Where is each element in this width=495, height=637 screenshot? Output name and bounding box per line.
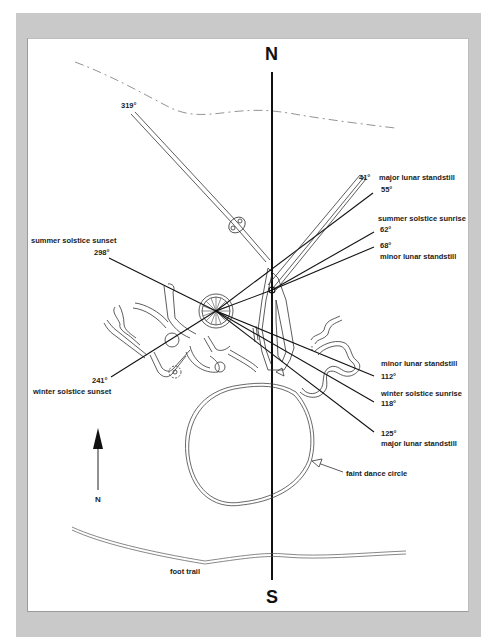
foot-trail-label: foot trail	[170, 567, 200, 576]
azimuth-55-degrees: 55°	[381, 185, 392, 194]
azimuth-298-degrees: 298°	[94, 248, 110, 257]
dance-circle-label: faint dance circle	[346, 469, 407, 478]
ridge-line	[75, 62, 395, 128]
azimuth-112-degrees: 112°	[381, 372, 396, 381]
azimuth-68-label: minor lunar standstill	[380, 252, 456, 261]
line-from-disk-to-center	[216, 290, 272, 311]
serpent-glyph	[300, 316, 360, 397]
line-62	[272, 232, 374, 290]
dance-circle-pointer	[312, 459, 343, 472]
alignment-diagram	[0, 0, 495, 637]
azimuth-241-degrees: 241°	[92, 376, 108, 385]
azimuth-68-degrees: 68°	[380, 241, 391, 250]
foot-trail	[72, 527, 406, 564]
sightlines-center	[216, 232, 374, 311]
south-label: S	[266, 588, 278, 606]
azimuth-125-degrees: 125°	[381, 429, 397, 438]
azimuth-41-degrees: 41°	[359, 173, 370, 182]
staff-glyph-41	[268, 175, 366, 290]
line-112	[216, 311, 374, 376]
line-298	[109, 258, 216, 311]
azimuth-125-label: major lunar standstill	[381, 439, 457, 448]
north-arrow-label: N	[95, 495, 101, 504]
azimuth-62-label: summer solstice sunrise	[378, 214, 466, 223]
azimuth-298-label: summer solstice sunset	[31, 236, 116, 245]
central-figure-glyph	[228, 268, 294, 376]
north-label: N	[265, 45, 278, 63]
sightlines-sun-disk	[109, 193, 374, 432]
line-55-from-disk	[216, 193, 373, 311]
staff-glyph-319	[131, 112, 270, 262]
azimuth-118-label: winter solstice sunrise	[381, 389, 462, 398]
azimuth-112-label: minor lunar standstill	[381, 359, 457, 368]
line-68	[272, 247, 374, 290]
dance-circle	[185, 383, 313, 506]
north-arrow-icon	[93, 428, 103, 490]
azimuth-241-label: winter solstice sunset	[33, 387, 111, 396]
azimuth-118-degrees: 118°	[381, 399, 396, 408]
azimuth-319-degrees: 319°	[121, 101, 137, 110]
azimuth-41-label: major lunar standstill	[379, 173, 455, 182]
azimuth-62-degrees: 62°	[380, 225, 391, 234]
